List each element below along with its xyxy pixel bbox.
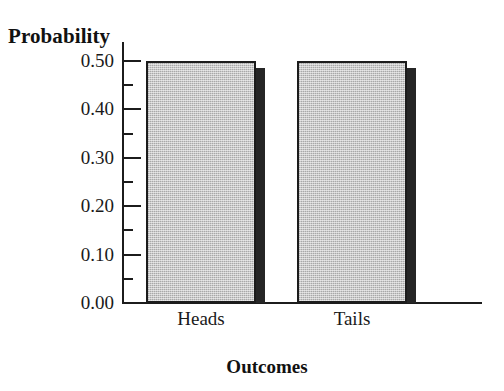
y-axis-tick-major: [124, 302, 141, 304]
y-axis-tick-minor: [124, 278, 133, 280]
y-axis-tick-minor: [124, 229, 133, 231]
x-axis-category-label-heads: Heads: [121, 308, 281, 330]
y-axis-tick-major: [124, 157, 141, 159]
y-axis-tick-label: 0.30: [54, 148, 114, 167]
bar-tails[interactable]: [297, 61, 407, 303]
y-axis-tick-major: [124, 205, 141, 207]
y-axis-tick-minor: [124, 133, 133, 135]
y-axis-tick-label: 0.20: [54, 196, 114, 215]
y-axis-line: [122, 42, 124, 303]
x-axis-title-container: Outcomes: [0, 356, 504, 378]
y-axis-tick-minor: [124, 181, 133, 183]
x-axis-title: Outcomes: [226, 356, 307, 377]
x-axis-category-label-tails: Tails: [272, 308, 432, 330]
bar-heads[interactable]: [146, 61, 256, 303]
bar-chart-figure: Probability Outcomes 0.500.400.300.200.1…: [0, 0, 504, 391]
y-axis-tick-label: 0.00: [54, 293, 114, 312]
y-axis-tick-minor: [124, 84, 133, 86]
y-axis-tick-major: [124, 60, 141, 62]
y-axis-tick-label: 0.50: [54, 51, 114, 70]
y-axis-tick-major: [124, 108, 141, 110]
y-axis-tick-major: [124, 254, 141, 256]
y-axis-tick-label: 0.10: [54, 245, 114, 264]
y-axis-title: Probability: [8, 24, 110, 49]
y-axis-tick-label: 0.40: [54, 99, 114, 118]
